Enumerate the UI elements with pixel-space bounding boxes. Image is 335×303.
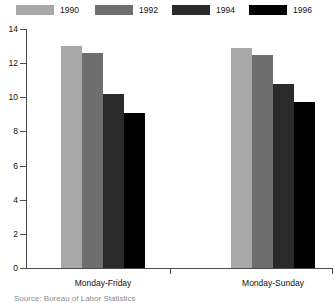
bar-1992-monday-sunday[interactable] [252, 55, 273, 268]
legend-swatch-1992 [95, 5, 133, 15]
bar-chart: 1990 1992 1994 1996 02468101214 Monday-F… [0, 0, 335, 303]
x-category-label-2: Monday-Sunday [201, 278, 335, 288]
bar-1996-monday-sunday[interactable] [294, 102, 315, 268]
bar-1990-monday-sunday[interactable] [231, 48, 252, 268]
legend-label-1996: 1996 [293, 5, 312, 15]
legend-item-1994[interactable]: 1994 [172, 0, 235, 20]
legend-label-1992: 1992 [139, 5, 158, 15]
legend-label-1994: 1994 [216, 5, 235, 15]
x-category-label-1: Monday-Friday [31, 278, 175, 288]
legend-label-1990: 1990 [60, 5, 79, 15]
bar-1996-monday-friday[interactable] [124, 113, 145, 268]
legend-item-1992[interactable]: 1992 [95, 0, 158, 20]
footer-caption: Source: Bureau of Labor Statistics [14, 294, 214, 303]
legend-item-1996[interactable]: 1996 [249, 0, 312, 20]
legend-swatch-1996 [249, 5, 287, 15]
footer-caption-text: Source: Bureau of Labor Statistics [14, 294, 214, 303]
bar-1994-monday-sunday[interactable] [273, 84, 294, 268]
bar-1990-monday-friday[interactable] [61, 46, 82, 268]
plot-area: 02468101214 Monday-FridayMonday-Sunday [0, 20, 335, 303]
bar-1994-monday-friday[interactable] [103, 94, 124, 268]
legend-item-1990[interactable]: 1990 [16, 0, 79, 20]
legend-swatch-1994 [172, 5, 210, 15]
bars-layer [0, 20, 335, 303]
legend-swatch-1990 [16, 5, 54, 15]
chart-legend: 1990 1992 1994 1996 [0, 0, 335, 20]
bar-1992-monday-friday[interactable] [82, 53, 103, 268]
